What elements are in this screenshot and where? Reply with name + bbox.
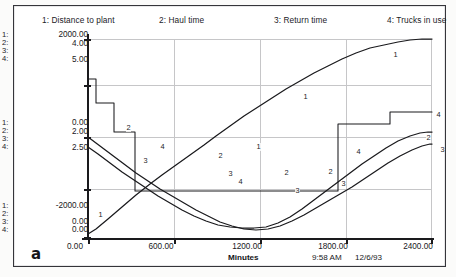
chart-screenshot: 1: Distance to plant 2: Haul time 3: Ret… <box>0 0 456 277</box>
x-axis-title: Minutes <box>228 253 259 262</box>
x-axis-label-1200: 1200.00 <box>222 242 272 251</box>
plot-area: 1 2 3 4 1 2 3 2 3 4 1 1 2 3 4 2 3 4 <box>88 39 432 238</box>
y-axis-value-2: 4.00 <box>16 40 88 48</box>
series-4-trucks-in-use <box>88 79 432 191</box>
legend: 1: Distance to plant 2: Haul time 3: Ret… <box>42 15 454 29</box>
y-axis-value-3: 0.00 <box>16 226 88 234</box>
y-axis-value-4: 2.50 <box>16 144 88 152</box>
timestamp-time: 9:58 AM <box>312 253 342 262</box>
point-label: 1 <box>256 143 261 151</box>
y-axis-label-group-bottom: 1: 2: 3: 4: -2000.00 0.00 0.00 <box>2 202 88 242</box>
y-axis-value-2: 2.00 <box>16 128 88 136</box>
point-label: 4 <box>436 111 441 119</box>
y-axis-value-4: 5.00 <box>16 56 88 64</box>
point-label: 1 <box>393 51 398 59</box>
legend-item-4: 4: Trucks in use <box>387 15 446 25</box>
y-axis-index-4: 4: <box>2 55 14 63</box>
point-label: 2 <box>218 152 223 160</box>
point-label: 3 <box>440 146 445 154</box>
y-axis-index-4: 4: <box>2 226 14 234</box>
point-label: 4 <box>160 143 165 151</box>
timestamp-date: 12/6/93 <box>355 253 382 262</box>
x-axis-line <box>82 238 434 240</box>
legend-item-1: 1: Distance to plant <box>42 15 115 25</box>
x-axis-label-2400: 2400.00 <box>393 242 443 251</box>
point-label: 3 <box>143 157 148 165</box>
x-axis-label-1800: 1800.00 <box>308 242 358 251</box>
x-axis-label-600: 600.00 <box>136 242 186 251</box>
point-label: 2 <box>126 124 131 132</box>
series-curves <box>88 39 432 238</box>
point-label: 3 <box>341 180 346 188</box>
legend-item-2: 2: Haul time <box>159 15 204 25</box>
point-label: 3 <box>228 170 233 178</box>
point-label: 2 <box>328 168 333 176</box>
y-axis-index-4: 4: <box>2 143 14 151</box>
point-label: 3 <box>295 187 300 195</box>
figure-label: a <box>31 245 41 263</box>
point-label: 4 <box>238 178 243 186</box>
point-label: 4 <box>356 148 361 156</box>
point-label: 1 <box>303 93 308 101</box>
x-axis-label-0: 0.00 <box>50 242 100 251</box>
y-axis-value-1: 2000.00 <box>16 31 88 39</box>
y-axis-label-group-top: 1: 2: 3: 4: 2000.00 4.00 5.00 <box>2 31 88 71</box>
point-label: 2 <box>426 134 431 142</box>
y-axis-label-group-middle: 1: 2: 3: 4: 0.00 2.00 2.50 <box>2 119 88 159</box>
page-frame: 1: Distance to plant 2: Haul time 3: Ret… <box>13 5 446 267</box>
point-label: 1 <box>98 211 103 219</box>
y-axis-value-1: 0.00 <box>16 119 88 127</box>
y-axis-value-1: -2000.00 <box>16 202 88 210</box>
series-1-distance-to-plant <box>88 39 432 234</box>
legend-item-3: 3: Return time <box>274 15 327 25</box>
point-label: 2 <box>284 169 289 177</box>
